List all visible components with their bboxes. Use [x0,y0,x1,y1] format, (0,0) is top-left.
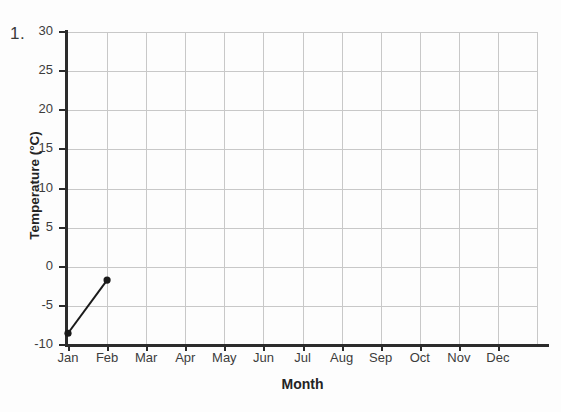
y-axis-tick [59,148,66,150]
y-axis-tick-label: 10 [6,180,53,195]
y-axis-tick [59,188,66,190]
y-axis-tick [59,344,66,346]
y-axis-tick [59,266,66,268]
data-point-marker [103,276,110,283]
y-axis-tick-label: -10 [6,336,53,351]
x-axis-title: Month [68,376,537,392]
y-axis-tick [59,227,66,229]
y-axis-tick [59,31,66,33]
y-axis-tick-label: 15 [6,140,53,155]
y-axis-tick [59,70,66,72]
y-axis-tick-label: 25 [6,62,53,77]
y-axis-tick-label: 0 [6,258,53,273]
y-axis-tick [59,109,66,111]
chart-worksheet: 1. Temperature (°C) Month 302520151050-5… [0,0,561,412]
y-axis-tick-label: 5 [6,219,53,234]
x-axis-tick-label: Dec [475,350,521,365]
y-axis-tick-label: -5 [6,297,53,312]
y-axis-tick-label: 20 [6,101,53,116]
data-point-marker [64,330,71,337]
series-line [68,280,107,333]
y-axis-tick [59,305,66,307]
y-axis-tick-label: 30 [6,23,53,38]
